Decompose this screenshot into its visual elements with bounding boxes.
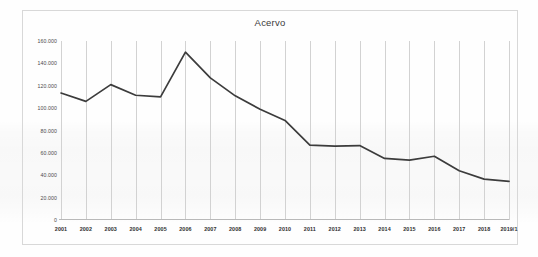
x-axis-tick-label: 2017	[453, 226, 465, 232]
y-axis-tick-label: 80.000	[41, 128, 57, 134]
y-axis-tick-label: 120.000	[38, 83, 57, 89]
series-chart-svg	[61, 41, 509, 220]
screenshot-page: Acervo 020.00040.00060.00080.000100.0001…	[0, 0, 538, 257]
chart-frame: Acervo 020.00040.00060.00080.000100.0001…	[22, 10, 518, 245]
x-axis-tick-label: 2007	[204, 226, 216, 232]
plot-area: 020.00040.00060.00080.000100.000120.0001…	[61, 41, 509, 220]
x-axis-tick-label: 2006	[179, 226, 191, 232]
y-axis-tick-label: 40.000	[41, 172, 57, 178]
x-axis-tick-label: 2005	[154, 226, 166, 232]
x-axis-tick-label: 2001	[55, 226, 67, 232]
x-axis-tick-label: 2011	[304, 226, 316, 232]
x-axis-tick-label: 2009	[254, 226, 266, 232]
x-axis-tick-label: 2019/1	[500, 226, 517, 232]
x-axis-tick-label: 2010	[279, 226, 291, 232]
x-axis-tick-label: 2016	[428, 226, 440, 232]
x-axis-tick-label: 2002	[80, 226, 92, 232]
y-axis-tick-label: 100.000	[38, 105, 57, 111]
x-axis-tick-label: 2018	[478, 226, 490, 232]
chart-title: Acervo	[23, 17, 517, 28]
y-axis-tick-label: 60.000	[41, 150, 57, 156]
x-axis-tick-label: 2004	[129, 226, 141, 232]
x-axis-tick-label: 2014	[378, 226, 390, 232]
y-axis-tick-label: 160.000	[38, 38, 57, 44]
x-axis-tick-label: 2008	[229, 226, 241, 232]
vertical-gridline	[509, 41, 510, 220]
acervo-line-series	[61, 52, 509, 181]
y-axis-tick-label: 0	[54, 217, 57, 223]
x-axis-tick-label: 2012	[329, 226, 341, 232]
x-axis-tick-label: 2013	[353, 226, 365, 232]
x-axis-tick-label: 2015	[403, 226, 415, 232]
x-axis-tick-label: 2003	[105, 226, 117, 232]
y-axis-tick-label: 140.000	[38, 60, 57, 66]
y-axis-tick-label: 20.000	[41, 195, 57, 201]
